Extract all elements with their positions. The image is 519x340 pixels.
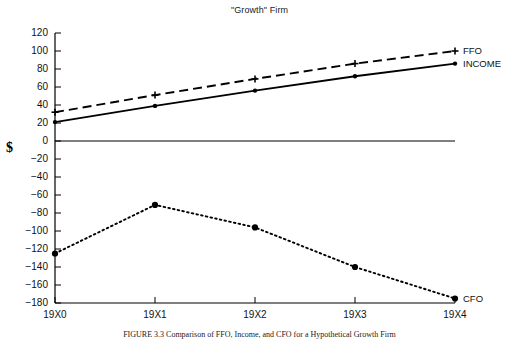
y-axis-tick-label: −100 <box>14 226 48 236</box>
x-axis-tick-label: 19X1 <box>125 310 185 320</box>
series-line-income <box>55 64 455 123</box>
series-line-cfo <box>55 205 455 299</box>
data-point-marker <box>353 74 357 78</box>
data-point-marker <box>152 92 159 99</box>
plot-area <box>0 0 519 340</box>
x-axis-tick-label: 19X0 <box>25 310 85 320</box>
y-axis-tick-label: 120 <box>14 28 48 38</box>
data-point-marker <box>352 264 358 270</box>
y-axis-tick-label: −120 <box>14 244 48 254</box>
y-axis-tick-label: −60 <box>14 190 48 200</box>
figure-container: "Growth" Firm $ 120100806040200−20−40−60… <box>0 0 519 340</box>
axes-layer <box>55 33 455 303</box>
data-point-marker <box>253 88 257 92</box>
y-axis-tick-label: 0 <box>14 136 48 146</box>
y-axis-tick-label: −80 <box>14 208 48 218</box>
y-axis-tick-label: −20 <box>14 154 48 164</box>
y-axis-tick-label: 60 <box>14 82 48 92</box>
data-point-marker <box>52 250 58 256</box>
y-axis-tick-label: −180 <box>14 298 48 308</box>
data-point-marker <box>453 61 457 65</box>
x-axis-tick-label: 19X2 <box>225 310 285 320</box>
data-point-marker <box>452 295 458 301</box>
y-axis-tick-label: −160 <box>14 280 48 290</box>
series-label-cfo: CFO <box>463 294 483 304</box>
y-axis-tick-label: 80 <box>14 64 48 74</box>
y-axis-tick-label: 40 <box>14 100 48 110</box>
y-axis-tick-label: −40 <box>14 172 48 182</box>
data-point-marker <box>452 48 459 55</box>
data-point-marker <box>252 224 258 230</box>
y-axis-tick-label: 20 <box>14 118 48 128</box>
figure-caption: FIGURE 3.3 Comparison of FFO, Income, an… <box>0 330 519 339</box>
data-point-marker <box>52 109 59 116</box>
data-point-marker <box>352 60 359 67</box>
data-point-marker <box>153 104 157 108</box>
y-axis-tick-label: 100 <box>14 46 48 56</box>
series-layer <box>52 48 459 302</box>
x-axis-tick-label: 19X4 <box>425 310 485 320</box>
x-axis-tick-label: 19X3 <box>325 310 385 320</box>
series-label-ffo: FFO <box>463 46 482 56</box>
series-label-income: INCOME <box>463 59 501 69</box>
data-point-marker <box>152 202 158 208</box>
y-axis-tick-label: −140 <box>14 262 48 272</box>
data-point-marker <box>252 75 259 82</box>
data-point-marker <box>53 120 57 124</box>
